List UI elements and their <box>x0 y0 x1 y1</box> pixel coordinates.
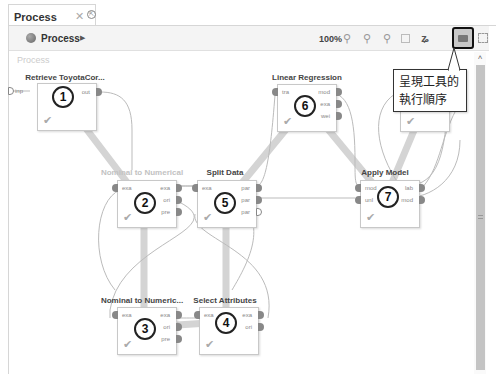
operator-name: Linear Regression <box>262 73 352 82</box>
port-tra-in: tra <box>282 89 289 95</box>
operator-name: Nominal to Numerical <box>97 168 187 177</box>
input-pin[interactable] <box>112 184 118 192</box>
input-pin[interactable] <box>194 311 200 319</box>
port-exa-in: exa <box>122 312 132 318</box>
operator-name: Apply Model <box>340 168 430 177</box>
port-par-out-1: par <box>241 185 250 191</box>
port-par-out-2: par <box>241 197 250 203</box>
port-pre-out: pre <box>161 209 170 215</box>
port-exa-out: exa <box>160 185 170 191</box>
port-mod-in: mod <box>365 185 377 191</box>
process-editor: Process ✕ ⇱ Process ▶ 100% ⚲ ⚲ ⚲ ʑ Proce… <box>0 0 496 374</box>
checkmark-icon: ✔ <box>203 211 212 224</box>
execution-order-badge: 1 <box>52 86 74 108</box>
checkmark-icon: ✔ <box>406 115 415 128</box>
tooltip-line-2: 執行順序 <box>399 91 466 109</box>
port-exa-in: exa <box>202 185 212 191</box>
port-exa-out: exa <box>320 101 330 107</box>
execution-order-tooltip: 呈現工具的 執行順序 <box>393 69 467 112</box>
port-pre-out: pre <box>161 336 170 342</box>
port-ori-out: ori <box>163 324 170 330</box>
input-pin[interactable] <box>112 311 118 319</box>
process-input-port: inp <box>15 88 23 94</box>
input-pin[interactable] <box>272 88 278 96</box>
port-mod-out: mod <box>401 197 413 203</box>
operator-name: Retrieve ToyotaCor... <box>20 73 110 82</box>
operator-name: Nominal to Numeric... <box>97 296 187 305</box>
input-pin[interactable] <box>355 196 361 204</box>
port-par-out-3: par <box>241 209 250 215</box>
execution-order-badge: 2 <box>134 192 156 214</box>
port-exa-in: exa <box>204 312 214 318</box>
port-out: out <box>82 89 90 95</box>
port-ori-out: ori <box>163 197 170 203</box>
port-exa-out: exa <box>160 312 170 318</box>
execution-order-badge: 6 <box>294 95 316 117</box>
checkmark-icon: ✔ <box>283 115 292 128</box>
checkmark-icon: ✔ <box>123 338 132 351</box>
execution-order-badge: 5 <box>214 192 236 214</box>
port-ori-out: ori <box>245 324 252 330</box>
vertical-scrollbar[interactable]: ˄ <box>474 52 486 374</box>
port-exa-in: exa <box>122 185 132 191</box>
checkmark-icon: ✔ <box>366 211 375 224</box>
scroll-up-icon[interactable]: ˄ <box>474 52 486 64</box>
checkmark-icon: ✔ <box>123 211 132 224</box>
input-pin[interactable] <box>192 184 198 192</box>
checkmark-icon: ✔ <box>43 114 52 127</box>
scrollbar-thumb[interactable] <box>476 65 485 370</box>
execution-order-badge: 4 <box>215 312 237 334</box>
port-lab-out: lab <box>405 185 413 191</box>
port-wei-out: wei <box>321 113 330 119</box>
port-exa-out: exa <box>242 312 252 318</box>
tooltip-line-1: 呈現工具的 <box>399 73 466 91</box>
execution-order-badge: 3 <box>134 318 156 340</box>
port-unl-in: unl <box>365 197 373 203</box>
checkmark-icon: ✔ <box>205 338 214 351</box>
grip-icon <box>478 215 483 219</box>
input-pin[interactable] <box>355 184 361 192</box>
operator-name: Select Attributes <box>180 296 270 305</box>
port-mod-out: mod <box>318 89 330 95</box>
execution-order-badge: 7 <box>377 186 399 208</box>
tooltip-pointer <box>440 48 470 72</box>
operator-name: Split Data <box>180 168 270 177</box>
